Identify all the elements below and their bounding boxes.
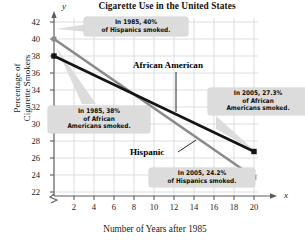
y-axis-title-line1: Percentage of	[12, 63, 22, 112]
chart-figure: Cigarette Use in the United States y x P…	[0, 0, 305, 240]
x-tick-14: 14	[186, 202, 202, 212]
series-label-african-american: African American	[133, 60, 203, 70]
x-axis-symbol: x	[284, 190, 288, 200]
x-tick-8: 8	[126, 202, 142, 212]
x-axis-title: Number of Years after 1985	[55, 224, 255, 234]
x-tick-10: 10	[146, 202, 162, 212]
x-tick-2: 2	[66, 202, 82, 212]
callout-african-american-1985-line3: Americans smoked.	[52, 123, 146, 131]
x-tick-6: 6	[106, 202, 122, 212]
callout-african-american-2005: In 2005, 27.3% of African Americans smok…	[208, 88, 305, 115]
y-axis-symbol: y	[62, 1, 66, 11]
tail-african-american-2005	[216, 116, 256, 152]
callout-african-american-2005-line3: Americans smoked.	[212, 105, 304, 113]
callout-african-american-1985: In 1985, 38% of African Americans smoked…	[48, 106, 150, 133]
x-tick-12: 12	[166, 202, 182, 212]
marker-african-american-start	[51, 53, 56, 58]
x-tick-18: 18	[226, 202, 242, 212]
x-tick-20: 20	[246, 202, 262, 212]
series-label-hispanic: Hispanic	[130, 147, 164, 157]
x-axis	[54, 193, 277, 200]
chart-title: Cigarette Use in the United States	[72, 1, 262, 11]
marker-hispanic-start	[52, 37, 57, 42]
callout-hispanic-2005: In 2005, 24.2% of Hispanics smoked.	[149, 168, 255, 187]
callout-hispanic-1985-line2: of Hispanics smoked.	[88, 27, 184, 35]
x-tick-4: 4	[86, 202, 102, 212]
callout-hispanic-2005-line2: of Hispanics smoked.	[153, 178, 251, 186]
leader-hispanic	[178, 140, 196, 152]
marker-african-american-end	[251, 149, 256, 154]
callout-hispanic-1985: In 1985, 40% of Hispanics smoked.	[84, 17, 188, 36]
x-tick-16: 16	[206, 202, 222, 212]
